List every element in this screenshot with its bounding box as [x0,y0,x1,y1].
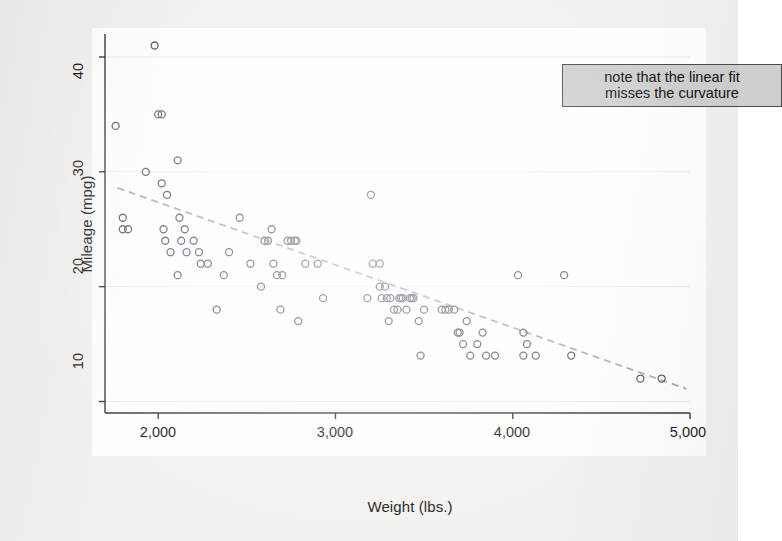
data-point [204,260,211,267]
data-point [181,226,188,233]
y-tick-label-10: 10 [70,353,86,369]
y-tick-label-40: 40 [70,63,86,79]
data-point [247,260,254,267]
data-point [270,260,277,267]
data-point [314,260,321,267]
data-point [474,341,481,348]
data-point [369,260,376,267]
annotation-line-2: misses the curvature [570,85,774,101]
scatter-plot-figure: 40 30 20 10 2,000 3,000 4,000 5,000 Mile… [92,28,706,456]
data-point [213,306,220,313]
data-point [492,352,499,359]
data-point [176,214,183,221]
data-point [403,306,410,313]
data-point [174,157,181,164]
data-point [467,352,474,359]
data-point [463,318,470,325]
data-point [523,341,530,348]
data-point [520,352,527,359]
data-point [367,191,374,198]
data-point [183,249,190,256]
data-point [236,214,243,221]
data-point [479,329,486,336]
data-point [532,352,539,359]
data-point [460,341,467,348]
data-point [364,295,371,302]
data-point [164,191,171,198]
annotation-line-1: note that the linear fit [570,69,774,85]
y-axis-title: Mileage (mpg) [78,175,95,272]
data-point [160,226,167,233]
data-point [112,122,119,129]
data-point [515,272,522,279]
data-point [174,272,181,279]
data-point [483,352,490,359]
data-point [197,260,204,267]
data-point [417,352,424,359]
data-point [158,180,165,187]
x-tick-label-5000: 5,000 [670,424,706,440]
data-point [277,306,284,313]
data-point [167,249,174,256]
data-point [421,306,428,313]
data-point [226,249,233,256]
data-point [385,318,392,325]
data-point [195,249,202,256]
data-point [178,237,185,244]
linear-fit-line [117,188,686,389]
data-point [151,42,158,49]
data-point [568,352,575,359]
data-point [190,237,197,244]
annotation-note: note that the linear fit misses the curv… [562,64,782,107]
x-tick-label-4000: 4,000 [494,424,530,440]
data-point [415,318,422,325]
data-point [268,226,275,233]
data-point [162,237,169,244]
x-axis-title: Weight (lbs.) [367,498,452,515]
data-point [320,295,327,302]
x-tick-label-3000: 3,000 [317,424,353,440]
data-point [376,260,383,267]
data-point [220,272,227,279]
data-point [637,375,644,382]
data-point [561,272,568,279]
data-point [295,318,302,325]
data-point [302,260,309,267]
x-tick-label-2000: 2,000 [140,424,176,440]
data-point [119,214,126,221]
y-tick-label-30: 30 [70,160,86,176]
